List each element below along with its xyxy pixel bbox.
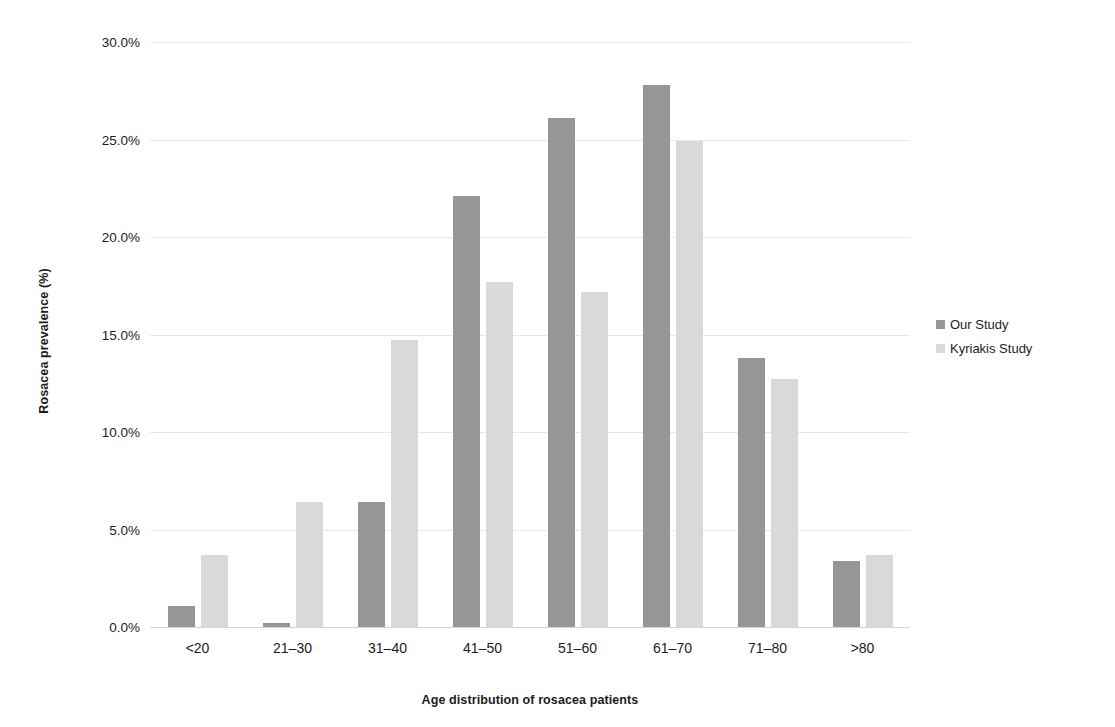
- legend-label: Our Study: [950, 318, 1009, 331]
- bar-group: [435, 42, 530, 627]
- y-axis-tick-label: 25.0%: [62, 132, 140, 147]
- bar: [486, 282, 513, 627]
- bar-chart: Rosacea prevalence (%) 0.0%5.0%10.0%15.0…: [0, 0, 1115, 727]
- x-axis-tick-label: 21–30: [245, 640, 340, 670]
- bar: [548, 118, 575, 627]
- bar: [263, 623, 290, 627]
- legend-item[interactable]: Our Study: [936, 318, 1111, 331]
- y-axis-tick-label: 5.0%: [62, 522, 140, 537]
- bar: [643, 85, 670, 627]
- bar-group: [150, 42, 245, 627]
- x-axis-tick-label: <20: [150, 640, 245, 670]
- bar: [771, 379, 798, 627]
- bar: [866, 555, 893, 627]
- x-axis-tick-label: >80: [815, 640, 910, 670]
- legend-swatch-icon: [936, 320, 945, 329]
- bar: [296, 502, 323, 627]
- legend-label: Kyriakis Study: [950, 342, 1032, 355]
- legend-item[interactable]: Kyriakis Study: [936, 342, 1111, 355]
- bar-group: [815, 42, 910, 627]
- x-axis-tick-label: 61–70: [625, 640, 720, 670]
- bar: [453, 196, 480, 627]
- x-axis-tick-label: 41–50: [435, 640, 530, 670]
- bar: [391, 340, 418, 627]
- bar: [581, 292, 608, 627]
- x-axis-tick-label: 51–60: [530, 640, 625, 670]
- bar-group: [625, 42, 720, 627]
- y-axis-tick-label: 20.0%: [62, 230, 140, 245]
- legend: Our StudyKyriakis Study: [936, 318, 1111, 366]
- axis-baseline: [150, 627, 910, 628]
- bar: [833, 561, 860, 627]
- bar: [358, 502, 385, 627]
- x-axis-title: Age distribution of rosacea patients: [150, 693, 910, 707]
- bar: [201, 555, 228, 627]
- y-axis-tick-label: 15.0%: [62, 327, 140, 342]
- x-axis-tick-labels: <2021–3031–4041–5051–6061–7071–80>80: [150, 640, 910, 670]
- y-axis-tick-label: 10.0%: [62, 425, 140, 440]
- legend-swatch-icon: [936, 344, 945, 353]
- bar-group: [720, 42, 815, 627]
- bar-group: [245, 42, 340, 627]
- x-axis-tick-label: 71–80: [720, 640, 815, 670]
- bar: [676, 141, 703, 627]
- bar-group: [530, 42, 625, 627]
- y-axis-tick-label: 0.0%: [62, 620, 140, 635]
- bar: [738, 358, 765, 627]
- y-axis-title: Rosacea prevalence (%): [37, 201, 51, 481]
- bar: [168, 606, 195, 627]
- y-axis-tick-labels: 0.0%5.0%10.0%15.0%20.0%25.0%30.0%: [62, 0, 140, 727]
- bar-group: [340, 42, 435, 627]
- bar-groups: [150, 42, 910, 627]
- plot-area: [150, 42, 910, 627]
- y-axis-tick-label: 30.0%: [62, 35, 140, 50]
- x-axis-tick-label: 31–40: [340, 640, 435, 670]
